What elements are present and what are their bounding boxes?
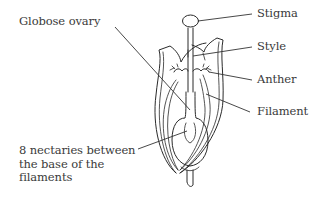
label-nectaries: 8 nectaries between the base of the fila…	[19, 144, 135, 185]
stigma-shape	[183, 15, 199, 27]
anthers	[170, 50, 211, 72]
leader-nectaries	[138, 131, 187, 149]
leader-filament	[206, 94, 250, 112]
label-nectaries-line-2: the base of the	[19, 158, 135, 172]
label-stigma: Stigma	[257, 7, 298, 21]
pistil	[183, 15, 199, 92]
label-nectaries-line-1: 8 nectaries between	[19, 144, 135, 158]
label-nectaries-line-3: filaments	[19, 171, 135, 185]
leader-stigma	[198, 14, 252, 21]
label-filament: Filament	[257, 105, 308, 119]
label-anther: Anther	[257, 73, 296, 87]
label-style: Style	[257, 40, 286, 54]
leader-anther	[209, 72, 252, 80]
leader-lines	[115, 14, 252, 149]
label-globose-ovary: Globose ovary	[19, 15, 100, 29]
